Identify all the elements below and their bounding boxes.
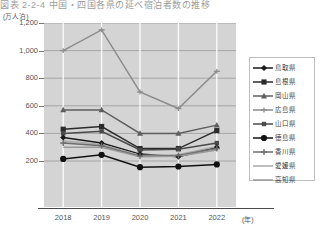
square-marker [61,127,66,132]
chart-root: 図表 2-2-4 中国・四国各県の延べ宿泊者数の推移 (万人泊) 1,2001,… [0,0,320,233]
x-axis-tick-label: 2021 [158,213,198,222]
triangle-marker [214,122,220,128]
dash-marker [252,104,274,116]
circle-marker [252,132,274,144]
diamond-marker [261,65,267,71]
y-axis-tick-label: 400 [4,128,38,137]
line-chart-svg [44,23,236,207]
y-axis-tick-label: 1,200 [4,18,38,27]
circle-marker [261,135,267,141]
circle-marker [175,163,181,169]
circle-marker [60,156,66,162]
line-marker [252,174,274,186]
legend-item[interactable]: 愛媛県 [252,159,312,173]
y-axis-tick-label: 200 [4,156,38,165]
legend-item-label: 鳥取県 [274,65,296,72]
y-axis-tick-label: 600 [4,101,38,110]
legend-item-label: 徳島県 [274,135,296,142]
y-axis-tick-mark [39,106,44,107]
legend-item[interactable]: 香川県 [252,145,312,159]
legend-item-label: 島根県 [274,79,296,86]
legend-item[interactable]: 岡山県 [252,89,312,103]
x-axis-unit-label: (年) [242,214,254,224]
legend-item-label: 高知県 [274,177,296,184]
diamond-marker [252,62,274,74]
x-axis-tick-label: 2018 [43,213,83,222]
dash-marker [261,108,267,113]
legend-item[interactable]: 山口県 [252,117,312,131]
legend-item-label: 愛媛県 [274,163,296,170]
square-marker [261,79,266,84]
y-axis-tick-mark [39,78,44,79]
square-small-marker [176,147,180,151]
y-axis-tick-label: 1,000 [4,46,38,55]
chart-legend: 鳥取県島根県岡山県広島県山口県徳島県香川県愛媛県高知県 [249,57,315,181]
legend-item[interactable]: 高知県 [252,173,312,187]
legend-item-label: 広島県 [274,107,296,114]
legend-item[interactable]: 鳥取県 [252,61,312,75]
square-marker [99,124,104,129]
circle-marker [214,161,220,167]
square-marker [252,76,274,88]
square-small-marker [252,118,274,130]
plus-marker [261,149,267,155]
page-title: 図表 2-2-4 中国・四国各県の延べ宿泊者数の推移 [0,0,320,9]
plot-area [44,23,236,207]
legend-item[interactable]: 島根県 [252,75,312,89]
line-marker [252,160,274,172]
triangle-marker [252,90,274,102]
legend-item-label: 山口県 [274,121,296,128]
x-axis-tick-label: 2022 [197,213,237,222]
circle-marker [99,152,105,158]
legend-item-label: 岡山県 [274,93,296,100]
plus-marker [252,146,274,158]
square-small-marker [99,129,103,133]
y-axis-tick-mark [39,51,44,52]
x-axis-baseline [38,208,274,209]
square-marker [214,128,219,133]
y-axis-tick-label: 800 [4,73,38,82]
y-axis-tick-mark [39,161,44,162]
legend-item-label: 香川県 [274,149,296,156]
y-axis-tick-mark [39,133,44,134]
legend-item[interactable]: 広島県 [252,103,312,117]
x-axis-tick-label: 2020 [120,213,160,222]
square-small-marker [262,122,266,126]
circle-marker [137,164,143,170]
x-axis-tick-label: 2019 [82,213,122,222]
legend-item[interactable]: 徳島県 [252,131,312,145]
y-axis-tick-mark [39,23,44,24]
